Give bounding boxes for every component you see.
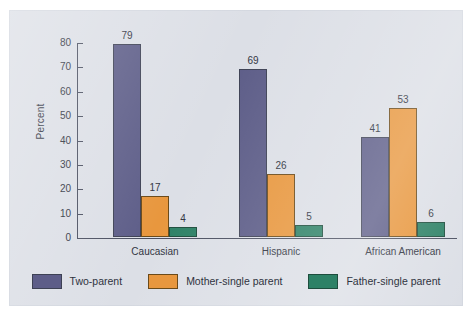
bar-value-label: 79 [121,31,132,41]
y-axis-tick-label: 30 [49,160,71,170]
y-axis-tick [78,92,83,93]
y-axis-tick [78,141,83,142]
chart-legend: Two-parentMother-single parentFather-sin… [9,268,463,294]
y-axis-tick-labels: 01020304050607080 [47,43,71,239]
y-axis-tick [78,67,83,68]
y-axis-tick [78,189,83,190]
y-axis-tick-label: 70 [49,62,71,72]
legend-item[interactable]: Two-parent [32,274,123,289]
x-axis-category-label: Hispanic [262,246,300,257]
y-axis-tick [78,214,83,215]
bar[interactable]: 17 [141,196,169,237]
y-axis-tick [78,116,83,117]
y-axis-title: Percent [35,87,46,157]
y-axis-tick-label: 80 [49,38,71,48]
x-axis-line [77,238,457,239]
bar-value-label: 53 [397,95,408,105]
y-axis-tick-label: 40 [49,136,71,146]
y-axis-tick-label: 20 [49,184,71,194]
legend-label: Mother-single parent [186,275,282,287]
bar-group: 79174 [113,42,197,237]
bar[interactable]: 5 [295,225,323,237]
legend-item[interactable]: Father-single parent [308,274,440,289]
y-axis-tick [78,43,83,44]
bar-group: 41536 [361,42,445,237]
legend-swatch [32,274,62,289]
y-axis-tick-label: 0 [49,233,71,243]
legend-item[interactable]: Mother-single parent [148,274,282,289]
bar-value-label: 5 [306,212,312,222]
bar-value-label: 41 [369,124,380,134]
y-axis-tick [78,238,83,239]
bar[interactable]: 41 [361,137,389,237]
bar-value-label: 17 [149,183,160,193]
bar[interactable]: 6 [417,222,445,237]
x-axis-category-label: African American [365,246,441,257]
legend-swatch [308,274,338,289]
y-axis-tick-label: 60 [49,87,71,97]
y-axis-tick-label: 50 [49,111,71,121]
bar[interactable]: 69 [239,69,267,237]
bar-value-label: 26 [275,161,286,171]
plot-area: 79174Caucasian69265Hispanic41536African … [77,43,457,238]
y-axis-tick-label: 10 [49,209,71,219]
bar-value-label: 6 [428,209,434,219]
bar[interactable]: 4 [169,227,197,237]
bar[interactable]: 53 [389,108,417,237]
chart-panel: 01020304050607080 Percent 79174Caucasian… [9,10,463,306]
bar[interactable]: 26 [267,174,295,237]
legend-label: Father-single parent [346,275,440,287]
legend-label: Two-parent [70,275,123,287]
bar-group: 69265 [239,42,323,237]
bar-chart-figure: 01020304050607080 Percent 79174Caucasian… [0,0,473,324]
y-axis-tick [78,165,83,166]
bar[interactable]: 79 [113,44,141,237]
bar-value-label: 69 [247,56,258,66]
bar-value-label: 4 [180,214,186,224]
x-axis-category-label: Caucasian [131,246,178,257]
legend-swatch [148,274,178,289]
